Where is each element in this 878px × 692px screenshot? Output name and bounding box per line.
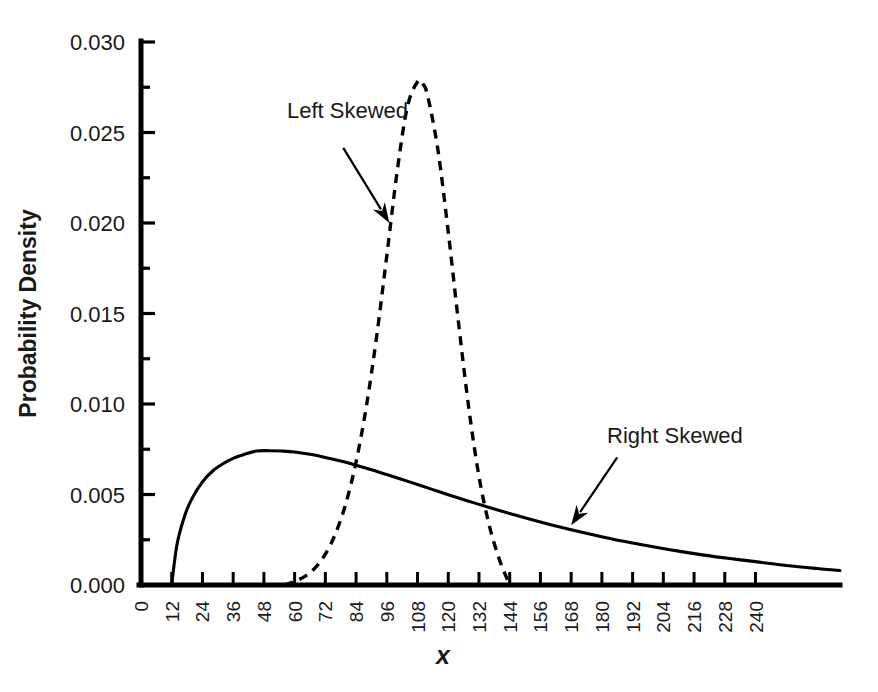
x-tick-label: 180 (592, 601, 613, 633)
x-tick-label: 84 (346, 601, 367, 623)
x-tick-label: 12 (162, 601, 183, 622)
x-tick-label: 60 (285, 601, 306, 622)
probability-density-chart: 0.0000.0050.0100.0150.0200.0250.030 0122… (0, 0, 878, 692)
chart-background (0, 0, 878, 692)
x-tick-label: 72 (315, 601, 336, 622)
x-tick-label: 192 (623, 601, 644, 633)
y-tick-label: 0.025 (70, 121, 125, 146)
x-tick-label: 144 (500, 601, 521, 633)
y-tick-label: 0.020 (70, 211, 125, 236)
x-axis-title: x (434, 641, 451, 669)
x-tick-label: 168 (561, 601, 582, 633)
x-tick-label: 132 (469, 601, 490, 633)
x-tick-label: 108 (408, 601, 429, 633)
y-tick-label: 0.015 (70, 302, 125, 327)
x-tick-label: 24 (192, 601, 213, 623)
y-tick-label: 0.010 (70, 392, 125, 417)
x-tick-label: 96 (377, 601, 398, 622)
y-axis-title: Probability Density (15, 209, 41, 418)
x-tick-label: 48 (254, 601, 275, 622)
y-tick-label: 0.005 (70, 483, 125, 508)
chart-figure: 0.0000.0050.0100.0150.0200.0250.030 0122… (0, 0, 878, 692)
x-tick-label: 36 (223, 601, 244, 622)
x-tick-label: 156 (530, 601, 551, 633)
x-tick-label: 216 (684, 601, 705, 633)
x-tick-label: 204 (653, 601, 674, 633)
x-tick-label: 228 (715, 601, 736, 633)
x-tick-label: 0 (131, 601, 152, 612)
y-tick-label: 0.030 (70, 30, 125, 55)
annotation-label: Left Skewed (287, 98, 408, 123)
y-tick-label: 0.000 (70, 573, 125, 598)
x-tick-label: 120 (438, 601, 459, 633)
x-tick-label: 240 (746, 601, 767, 633)
annotation-label: Right Skewed (607, 423, 743, 448)
